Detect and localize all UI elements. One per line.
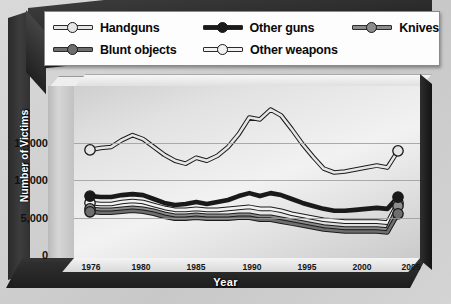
legend-label-handguns: Handguns xyxy=(100,21,160,35)
legend-marker-knives-icon xyxy=(352,22,392,33)
x-tick-2005: 2005 xyxy=(402,262,421,272)
x-tick-1985: 1985 xyxy=(187,262,206,272)
legend-label-blunt-objects: Blunt objects xyxy=(100,43,177,57)
legend-label-other-weapons: Other weapons xyxy=(250,43,338,57)
x-tick-1980: 1980 xyxy=(132,262,151,272)
legend-marker-other-guns-icon xyxy=(203,22,243,33)
x-axis-label: Year xyxy=(0,276,451,288)
plot-lines xyxy=(74,86,420,258)
y-axis-label: Number of Victims xyxy=(18,96,30,216)
legend-row-2: Blunt objects Other weapons xyxy=(53,39,439,61)
legend-item-blunt-objects[interactable]: Blunt objects xyxy=(53,43,203,57)
legend-row-1: Handguns Other guns Knives xyxy=(53,17,439,39)
legend-item-other-weapons[interactable]: Other weapons xyxy=(203,43,338,57)
legend-label-knives: Knives xyxy=(399,21,439,35)
plot-right-wall xyxy=(420,74,432,270)
legend-marker-other-weapons-icon xyxy=(203,44,243,55)
y-tick-0: 0 xyxy=(0,249,48,261)
legend-item-handguns[interactable]: Handguns xyxy=(53,21,203,35)
plot-area xyxy=(74,86,420,258)
legend-item-other-guns[interactable]: Other guns xyxy=(203,21,353,35)
x-axis-ticks: 1976 1980 1985 1990 1995 2000 2005 xyxy=(0,262,451,276)
chart-screenshot: Handguns Other guns Knives Blunt obje xyxy=(0,0,451,304)
legend-item-knives[interactable]: Knives xyxy=(352,21,439,35)
chart-legend: Handguns Other guns Knives Blunt obje xyxy=(44,11,440,66)
x-tick-1990: 1990 xyxy=(243,262,262,272)
x-tick-1995: 1995 xyxy=(298,262,317,272)
x-tick-1976: 1976 xyxy=(82,262,101,272)
legend-label-other-guns: Other guns xyxy=(250,21,315,35)
legend-marker-blunt-objects-icon xyxy=(53,44,93,55)
axis-pillar xyxy=(48,86,74,258)
x-tick-2000: 2000 xyxy=(353,262,372,272)
legend-marker-handguns-icon xyxy=(53,22,93,33)
